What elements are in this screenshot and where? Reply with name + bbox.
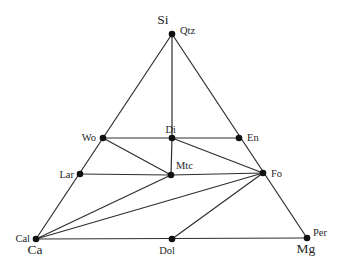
- phase-label-per: Per: [313, 227, 328, 238]
- corner-label-mg: Mg: [297, 241, 316, 256]
- tie-line-cal-mtc: [36, 175, 171, 239]
- phase-point-mtc: [168, 172, 175, 179]
- phase-label-qtz: Qtz: [180, 25, 196, 36]
- phase-diagram-svg: QtzWoDiEnLarMtcFoCalDolPerSiCaMg: [0, 0, 344, 270]
- corner-label-si: Si: [157, 12, 169, 27]
- phase-label-fo: Fo: [271, 168, 282, 179]
- phase-label-lar: Lar: [59, 169, 74, 180]
- tie-line-wo-mtc: [103, 138, 171, 175]
- phase-label-wo: Wo: [82, 132, 96, 143]
- phase-point-qtz: [169, 31, 176, 38]
- phase-point-di: [169, 135, 176, 142]
- phase-point-dol: [169, 236, 176, 243]
- phase-point-lar: [77, 171, 84, 178]
- phase-label-en: En: [247, 132, 259, 143]
- tie-line-mtc-fo: [171, 173, 263, 175]
- tie-line-dol-fo: [172, 173, 263, 239]
- phase-label-mtc: Mtc: [176, 160, 193, 171]
- phase-point-fo: [260, 170, 267, 177]
- ternary-phase-diagram: QtzWoDiEnLarMtcFoCalDolPerSiCaMg: [0, 0, 344, 270]
- tie-line-lar-mtc: [80, 174, 171, 175]
- tie-line-di-mtc: [171, 138, 172, 175]
- phase-label-di: Di: [166, 124, 177, 135]
- tie-line-cal-fo: [36, 173, 263, 239]
- phase-label-dol: Dol: [159, 245, 175, 256]
- corner-label-ca: Ca: [28, 242, 43, 257]
- phase-point-en: [236, 135, 243, 142]
- phase-point-wo: [100, 135, 107, 142]
